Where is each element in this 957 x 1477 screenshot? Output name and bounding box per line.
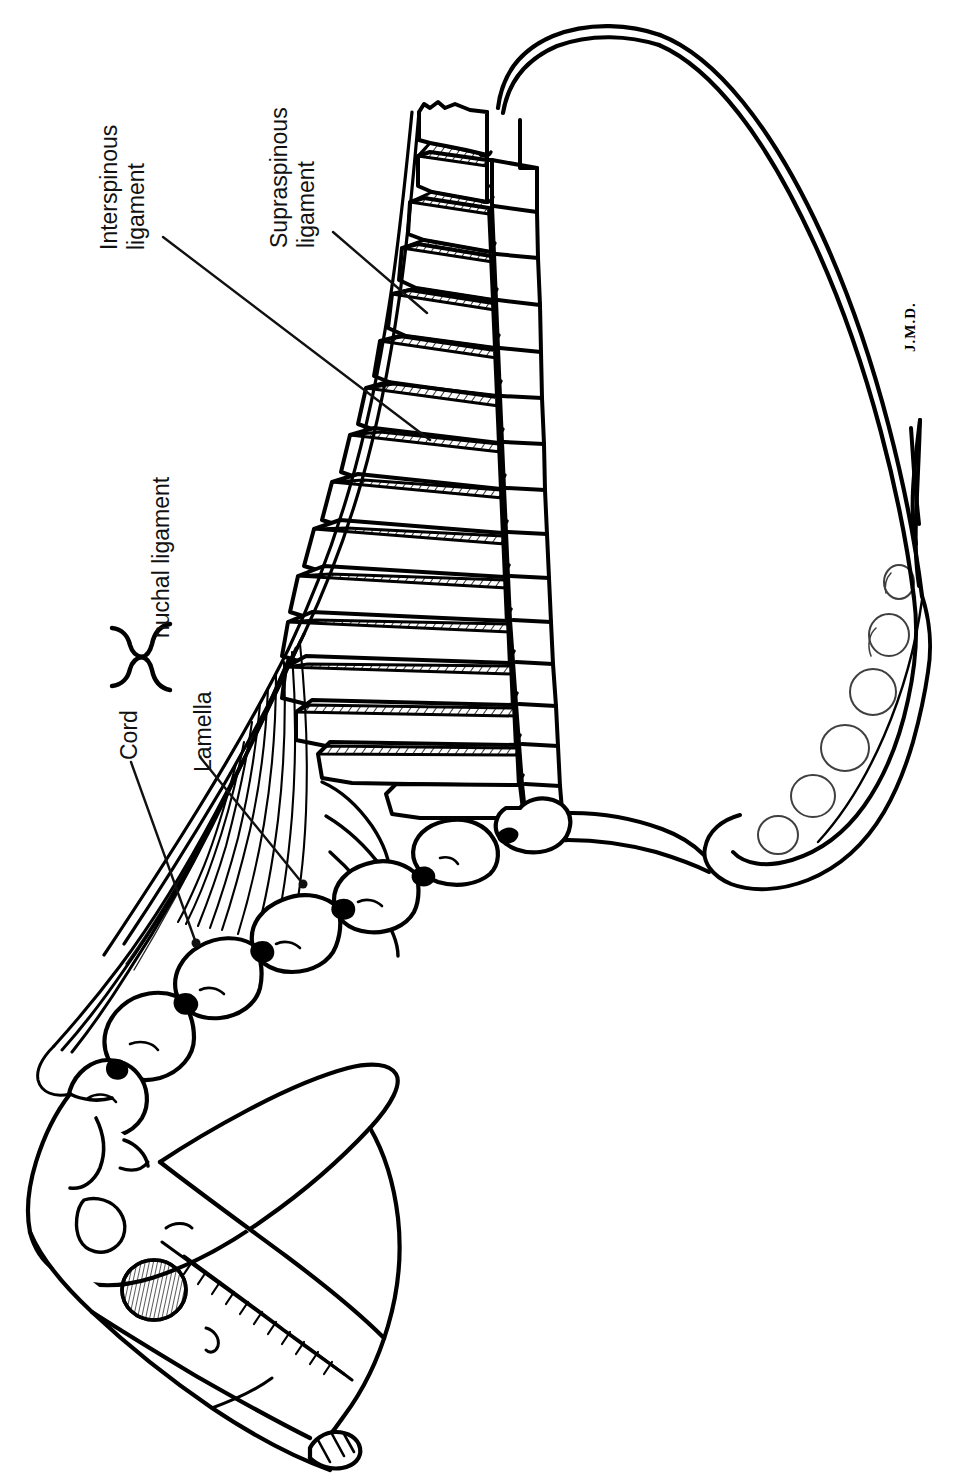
humerus-shaft: [555, 813, 709, 872]
scapula-fossa-marks: [758, 565, 914, 854]
label-lamella: Lamella: [190, 691, 217, 772]
label-supraspinous-line2: ligament: [293, 107, 320, 248]
label-supraspinous-ligament: Supraspinous ligament: [266, 107, 320, 248]
illustration-canvas: Interspinous ligament Supraspinous ligam…: [0, 0, 957, 1477]
label-cord-line1: Cord: [116, 710, 142, 760]
skull: [28, 1065, 400, 1470]
label-supraspinous-line1: Supraspinous: [266, 107, 292, 248]
cheek-teeth: [162, 1242, 352, 1380]
label-interspinous-ligament: Interspinous ligament: [96, 125, 150, 250]
label-lamella-line1: Lamella: [190, 691, 216, 772]
label-interspinous-line1: Interspinous: [96, 125, 122, 250]
orbit: [122, 1260, 186, 1320]
label-nuchal-line1: nuchal ligament: [148, 477, 174, 638]
first-rib: [498, 26, 922, 598]
artist-signature: J.M.D.: [902, 302, 919, 352]
label-interspinous-line2: ligament: [123, 125, 150, 250]
label-cord: Cord: [116, 710, 143, 760]
label-nuchal-ligament: nuchal ligament: [148, 477, 175, 638]
